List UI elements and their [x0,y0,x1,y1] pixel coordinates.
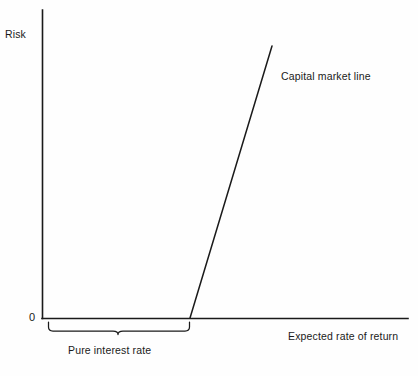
capital-market-line-annotation: Capital market line [281,70,371,82]
origin-tick-label: 0 [29,311,35,323]
capital-market-line-series [190,46,272,318]
chart-plot-area [0,0,418,376]
pure-interest-rate-annotation: Pure interest rate [68,344,151,356]
figure-canvas: Risk 0 Capital market line Pure interest… [0,0,418,376]
x-axis-label: Expected rate of return [288,330,398,342]
y-axis-label: Risk [5,28,26,40]
pure-interest-rate-brace [49,322,190,335]
